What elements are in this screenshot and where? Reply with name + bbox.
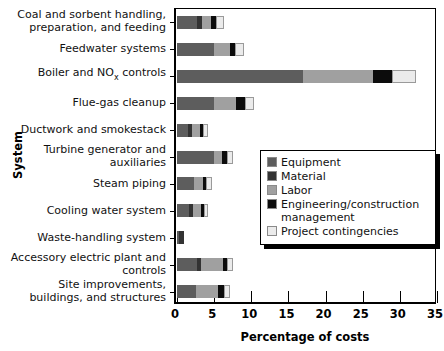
x-tick-label-0: 0	[160, 307, 190, 321]
bar-segment	[214, 97, 236, 110]
category-label-text: Cooling water system	[0, 203, 166, 216]
legend-item: Labor	[267, 184, 429, 197]
bar-row	[176, 70, 438, 83]
bar-segment	[177, 124, 188, 137]
category-label-text: Accessory electric plant andcontrols	[0, 251, 166, 277]
x-axis-title: Percentage of costs	[174, 330, 436, 344]
bar-segment	[196, 285, 218, 298]
bar-segment	[203, 124, 208, 137]
chart-legend: EquipmentMaterialLaborEngineering/constr…	[260, 150, 436, 245]
y-tick	[170, 76, 176, 77]
bar-segment	[214, 43, 230, 56]
legend-item: Equipment	[267, 156, 429, 169]
bar-segment	[177, 70, 303, 83]
bar-segment	[193, 204, 200, 217]
horizontal-stacked-bar-chart: System Percentage of costs Coal and sorb…	[0, 0, 444, 351]
legend-item: Material	[267, 170, 429, 183]
bar-segment	[177, 177, 194, 190]
category-label-text: Turbine generator andauxiliaries	[0, 143, 166, 169]
legend-swatch-icon	[267, 226, 277, 236]
bar-segment	[194, 177, 203, 190]
x-tick-label-30: 30	[383, 307, 413, 321]
category-label-text: Site improvements,buildings, and structu…	[0, 278, 166, 304]
legend-swatch-icon	[267, 199, 277, 209]
y-tick	[170, 211, 176, 212]
bar-row	[176, 43, 438, 56]
bar-segment	[214, 151, 221, 164]
x-tick-label-5: 5	[197, 307, 227, 321]
y-tick	[170, 238, 176, 239]
legend-item: Project contingencies	[267, 225, 429, 238]
bar-segment	[201, 258, 223, 271]
bar-segment	[177, 204, 189, 217]
bar-segment	[177, 97, 214, 110]
legend-label: Equipment	[281, 156, 341, 169]
category-label-text: Feedwater systems	[0, 42, 166, 55]
bar-segment	[179, 231, 183, 244]
bar-segment	[177, 151, 214, 164]
bar-segment	[206, 177, 212, 190]
y-tick	[170, 184, 176, 185]
y-tick	[170, 157, 176, 158]
category-label-text: Waste-handling system	[0, 230, 166, 243]
legend-label: Labor	[281, 184, 312, 197]
bar-segment	[227, 258, 233, 271]
y-tick	[170, 292, 176, 293]
bar-segment	[392, 70, 416, 83]
bar-segment	[235, 43, 244, 56]
bar-segment	[216, 16, 224, 29]
bar-row	[176, 285, 438, 298]
y-tick	[170, 130, 176, 131]
bar-segment	[227, 151, 233, 164]
category-label-text: Flue-gas cleanup	[0, 96, 166, 109]
bar-segment	[224, 285, 230, 298]
x-tick-label-20: 20	[309, 307, 339, 321]
bar-row	[176, 16, 438, 29]
category-label-text: Ductwork and smokestack	[0, 123, 166, 136]
bar-segment	[245, 97, 255, 110]
y-tick	[170, 49, 176, 50]
bar-segment	[202, 16, 212, 29]
bar-segment	[373, 70, 392, 83]
x-tick-label-15: 15	[271, 307, 301, 321]
legend-label: Engineering/construction management	[281, 198, 419, 224]
bar-segment	[236, 97, 244, 110]
legend-label: Project contingencies	[281, 225, 399, 238]
bar-segment	[192, 124, 200, 137]
bar-row	[176, 124, 438, 137]
x-tick-label-35: 35	[420, 307, 444, 321]
y-tick	[170, 265, 176, 266]
bar-segment	[177, 43, 214, 56]
legend-swatch-icon	[267, 185, 277, 195]
category-label-text: Boiler and NOx controls	[0, 67, 166, 84]
bar-row	[176, 258, 438, 271]
bar-segment	[177, 285, 196, 298]
category-label-text: Coal and sorbent handling,preparation, a…	[0, 8, 166, 34]
y-tick	[170, 22, 176, 23]
bar-row	[176, 97, 438, 110]
x-tick-label-10: 10	[234, 307, 264, 321]
legend-item: Engineering/construction management	[267, 198, 429, 224]
legend-label: Material	[281, 170, 326, 183]
legend-swatch-icon	[267, 157, 277, 167]
bar-segment	[177, 16, 197, 29]
bar-segment	[204, 204, 208, 217]
y-tick	[170, 103, 176, 104]
bar-segment	[303, 70, 374, 83]
x-tick-label-25: 25	[346, 307, 376, 321]
bar-segment	[177, 258, 197, 271]
category-label-text: Steam piping	[0, 176, 166, 189]
legend-swatch-icon	[267, 171, 277, 181]
